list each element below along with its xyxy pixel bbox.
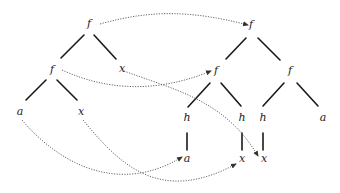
right-tree-edge [188,83,210,107]
left-tree-node-a: a [17,105,24,118]
right-tree-edge [297,83,318,106]
right-tree-node-f: f [213,64,220,77]
left-tree-edge [57,80,77,100]
right-tree-edges [187,38,318,150]
right-tree-node-x: x [239,152,246,165]
right-tree-node-a: a [320,111,327,124]
right-tree-edge [221,83,241,106]
right-tree-node-a: a [184,152,191,165]
right-tree-node-f: f [248,18,255,31]
left-tree-node-f: f [49,63,56,76]
left-tree-edges [26,35,116,100]
left-tree-edge [26,80,46,100]
right-tree-node-h: h [259,111,266,124]
right-tree-node-h: h [238,111,245,124]
mapping-arrow-L3-to-R7 [22,120,182,174]
right-tree-edge [258,38,280,60]
mapping-arrows [22,14,258,181]
right-tree-node-f: f [287,64,294,77]
right-tree-node-x: x [261,152,268,165]
right-tree-node-h: h [183,111,190,124]
right-tree-edge [226,38,246,59]
tree-mapping-diagram: ffxax fffhhhaaxx [0,0,340,193]
mapping-arrow-L0-to-R0 [100,14,248,25]
left-tree-edge [61,35,84,58]
mapping-arrow-L1-to-R1 [62,70,211,87]
left-tree-node-x: x [78,105,85,118]
left-tree-nodes: ffxax [17,17,126,118]
left-tree-node-f: f [86,17,93,30]
left-tree-node-x: x [119,62,126,75]
right-tree-edge [263,83,284,106]
mapping-arrow-L4-to-R8 [83,120,236,181]
left-tree-edge [94,35,116,59]
